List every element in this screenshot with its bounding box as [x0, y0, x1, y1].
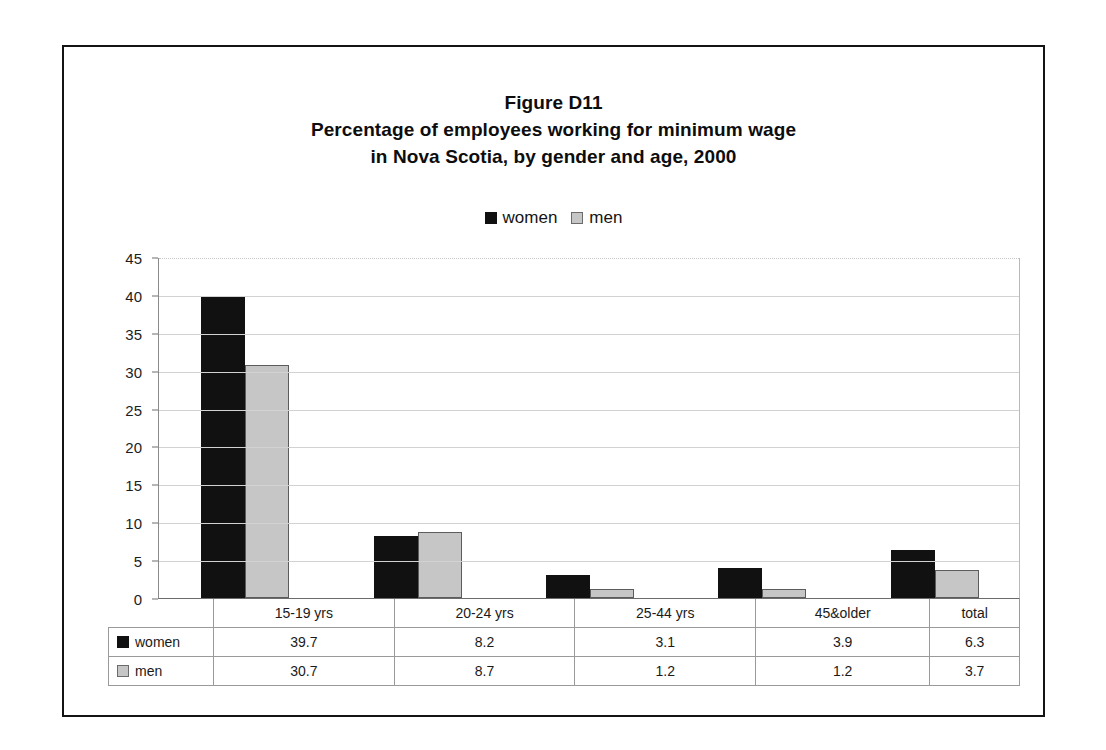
table-cell: 3.1	[575, 628, 756, 657]
table-column-header: 20-24 yrs	[394, 599, 575, 628]
table-cell: 1.2	[575, 657, 756, 686]
bar-women	[891, 550, 935, 598]
table-header-row: 15-19 yrs20-24 yrs25-44 yrs45&oldertotal	[109, 599, 1020, 628]
table-column-header: 45&older	[756, 599, 930, 628]
y-axis-tick-label: 5	[134, 553, 142, 570]
table-row-label-text: men	[135, 663, 162, 679]
y-axis-tick-label: 15	[125, 477, 142, 494]
figure-frame: Figure D11 Percentage of employees worki…	[62, 45, 1045, 717]
bars-layer	[159, 258, 1019, 598]
bar-men	[762, 589, 806, 598]
y-axis-tick-label: 10	[125, 515, 142, 532]
y-axis-tick-label: 45	[125, 250, 142, 267]
table-cell: 30.7	[214, 657, 395, 686]
bar-group	[331, 258, 503, 598]
table-row-label-women: women	[109, 628, 214, 657]
table-cell: 3.9	[756, 628, 930, 657]
bar-men	[245, 365, 289, 598]
gridline	[159, 485, 1019, 486]
title-line-2: Percentage of employees working for mini…	[64, 116, 1043, 143]
legend-label-men: men	[589, 208, 622, 228]
y-axis-tick-label: 20	[125, 439, 142, 456]
gridline	[159, 334, 1019, 335]
y-axis-labels: 454035302520151050	[108, 258, 152, 599]
bar-men	[935, 570, 979, 598]
plot-wrapper: 454035302520151050	[108, 258, 1020, 606]
table-corner-cell	[109, 599, 214, 628]
gridline	[159, 258, 1019, 260]
gray-square-icon	[117, 665, 129, 677]
bar-group	[676, 258, 848, 598]
y-axis-tick-label: 40	[125, 287, 142, 304]
gridline	[159, 561, 1019, 562]
legend-item-men: men	[571, 208, 622, 228]
legend-label-women: women	[503, 208, 558, 228]
gridline	[159, 372, 1019, 373]
bar-women	[718, 568, 762, 598]
bar-group	[504, 258, 676, 598]
table-cell: 8.7	[394, 657, 575, 686]
table-column-header: 15-19 yrs	[214, 599, 395, 628]
y-axis-tick-label: 25	[125, 401, 142, 418]
gridline	[159, 447, 1019, 448]
table-cell: 3.7	[930, 657, 1020, 686]
bar-women	[546, 575, 590, 598]
gridline	[159, 296, 1019, 297]
table-column-header: 25-44 yrs	[575, 599, 756, 628]
bar-group	[849, 258, 1021, 598]
data-table: 15-19 yrs20-24 yrs25-44 yrs45&oldertotal…	[108, 599, 1020, 686]
title-line-3: in Nova Scotia, by gender and age, 2000	[64, 143, 1043, 170]
y-axis-tick-label: 30	[125, 363, 142, 380]
table-cell: 1.2	[756, 657, 930, 686]
y-axis-tick-label: 35	[125, 325, 142, 342]
table-cell: 39.7	[214, 628, 395, 657]
bar-group	[159, 258, 331, 598]
gray-square-icon	[571, 212, 583, 224]
title-line-1: Figure D11	[64, 89, 1043, 116]
plot-area	[158, 258, 1020, 599]
table-cell: 6.3	[930, 628, 1020, 657]
table-row-label-men: men	[109, 657, 214, 686]
legend-item-women: women	[485, 208, 558, 228]
gridline	[159, 410, 1019, 411]
table-row: men30.78.71.21.23.7	[109, 657, 1020, 686]
bar-men	[418, 532, 462, 598]
table-cell: 8.2	[394, 628, 575, 657]
bar-women	[374, 536, 418, 598]
table-row-label-text: women	[135, 634, 180, 650]
gridline	[159, 523, 1019, 524]
black-square-icon	[485, 212, 497, 224]
chart-legend: women men	[64, 208, 1043, 228]
bar-men	[590, 589, 634, 598]
black-square-icon	[117, 636, 129, 648]
table-column-header: total	[930, 599, 1020, 628]
figure-title: Figure D11 Percentage of employees worki…	[64, 89, 1043, 170]
table-row: women39.78.23.13.96.3	[109, 628, 1020, 657]
